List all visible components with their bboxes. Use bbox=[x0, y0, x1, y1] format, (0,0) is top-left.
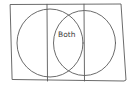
left-set-circle bbox=[17, 9, 83, 77]
overlap-label: Both bbox=[58, 30, 76, 39]
left-divider-line bbox=[47, 4, 48, 81]
venn-diagram-svg: Both bbox=[0, 0, 132, 85]
venn-diagram: Both bbox=[0, 0, 132, 85]
right-divider-line bbox=[84, 4, 85, 81]
